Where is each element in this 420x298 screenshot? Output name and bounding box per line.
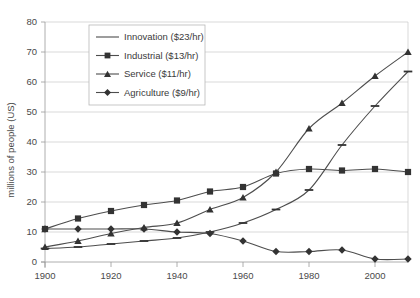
data-point-marker-line: [272, 209, 281, 211]
data-point-marker-triangle: [206, 206, 213, 213]
series-agriculture: [41, 225, 411, 262]
chart-legend: Innovation ($23/hr)Industrial ($13/hr)Se…: [89, 25, 205, 105]
data-point-marker-square: [240, 184, 246, 190]
data-point-marker-line: [371, 105, 380, 107]
legend-label: Service ($11/hr): [124, 68, 191, 79]
x-axis-tick-label: 1980: [298, 270, 319, 281]
line-chart: 01020304050607080 1900192019401960198020…: [0, 0, 420, 298]
y-axis-tick-label: 40: [26, 136, 37, 147]
x-axis-tick-label: 1920: [100, 270, 121, 281]
data-point-marker-square: [207, 188, 213, 194]
data-point-marker-square: [174, 197, 180, 203]
y-axis-tick-label: 50: [26, 106, 37, 117]
data-point-marker-square: [108, 208, 114, 214]
data-point-marker-square: [405, 169, 411, 175]
x-axis-tick-labels: 190019201940196019802000: [34, 262, 385, 281]
data-point-marker-diamond: [74, 225, 81, 232]
data-point-marker-line: [239, 222, 248, 224]
data-point-marker-diamond: [272, 248, 279, 255]
y-axis-tick-label: 60: [26, 76, 37, 87]
data-point-marker-diamond: [107, 225, 114, 232]
data-point-marker-square: [75, 215, 81, 221]
series-line: [45, 169, 408, 229]
x-axis-tick-label: 1940: [166, 270, 187, 281]
series-industrial: [42, 166, 411, 232]
data-point-marker-line: [74, 246, 83, 248]
data-point-marker-line: [338, 144, 347, 146]
data-point-marker-line: [305, 189, 314, 191]
data-point-marker-diamond: [338, 246, 345, 253]
legend-label: Agriculture ($9/hr): [124, 87, 200, 98]
y-axis-tick-label: 20: [26, 196, 37, 207]
x-axis-tick-label: 2000: [364, 270, 385, 281]
y-axis-title: millions of people (US): [5, 102, 16, 198]
data-point-marker-square: [372, 166, 378, 172]
x-axis-tick-label: 1900: [34, 270, 55, 281]
y-axis-tick-label: 30: [26, 166, 37, 177]
data-point-marker-square: [105, 53, 111, 59]
data-point-marker-diamond: [140, 225, 147, 232]
data-point-marker-line: [173, 237, 182, 239]
data-point-marker-square: [141, 202, 147, 208]
legend-label: Industrial ($13/hr): [124, 50, 198, 61]
data-point-marker-triangle: [239, 194, 246, 201]
series-line: [45, 229, 408, 260]
x-axis-tick-label: 1960: [232, 270, 253, 281]
data-point-marker-triangle: [173, 220, 180, 227]
y-axis-tick-label: 70: [26, 46, 37, 57]
data-point-marker-diamond: [371, 255, 378, 262]
data-point-marker-square: [306, 166, 312, 172]
y-axis-tick-label: 10: [26, 226, 37, 237]
data-point-marker-diamond: [305, 248, 312, 255]
data-point-marker-line: [107, 243, 116, 245]
data-point-marker-line: [404, 71, 413, 73]
data-point-marker-diamond: [173, 228, 180, 235]
chart-container: 01020304050607080 1900192019401960198020…: [0, 0, 420, 298]
data-point-marker-diamond: [239, 237, 246, 244]
data-point-marker-line: [140, 240, 149, 242]
y-axis-tick-label: 80: [26, 16, 37, 27]
legend-label: Innovation ($23/hr): [124, 31, 204, 42]
data-point-marker-square: [339, 167, 345, 173]
y-axis-tick-label: 0: [32, 256, 37, 267]
data-point-marker-diamond: [404, 255, 411, 262]
